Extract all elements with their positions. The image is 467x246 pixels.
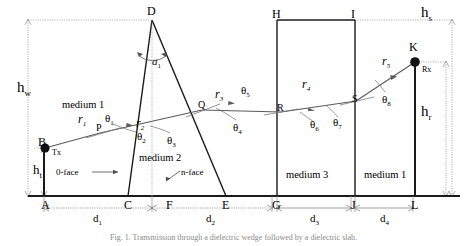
ray-label-r4: r4 — [302, 78, 310, 93]
point-label-a: A — [41, 199, 50, 211]
point-label-r: R — [277, 103, 284, 113]
dimension-hs — [449, 19, 455, 197]
face-leaders — [92, 170, 180, 181]
point-label-c: C — [124, 199, 132, 211]
point-label-h: H — [272, 8, 281, 20]
zero-face-label: 0-face — [56, 168, 78, 177]
wedge-medium-2 — [128, 20, 226, 196]
angle-label-theta8: θ8 — [382, 94, 391, 108]
distance-label-d3: d3 — [310, 213, 319, 227]
angle-label-theta6: θ6 — [310, 119, 319, 133]
point-label-i: I — [351, 8, 355, 20]
point-label-f: F — [166, 199, 173, 211]
angle-label-theta2: θ2 — [137, 131, 146, 145]
rx-label: Rx — [422, 66, 431, 74]
rx-marker — [410, 57, 420, 67]
distance-label-d2: d2 — [206, 213, 215, 227]
height-label-ht: ht — [33, 163, 42, 180]
point-label-e: E — [222, 199, 229, 211]
angle-label-a1: a1 — [152, 56, 161, 70]
ray-label-r5: r5 — [382, 55, 390, 70]
height-label-hs: hs — [421, 5, 432, 23]
medium-label-1-right: medium 1 — [364, 170, 406, 181]
point-label-q: Q — [198, 100, 205, 110]
dimension-hr — [443, 61, 449, 197]
angle-label-theta1: θ1 — [105, 113, 114, 127]
distance-label-d1: d1 — [93, 213, 102, 227]
point-label-p: P — [96, 123, 102, 133]
point-label-g: G — [272, 199, 281, 211]
dimension-hw — [25, 19, 31, 197]
medium-label-2: medium 2 — [139, 153, 181, 164]
point-label-b: B — [38, 136, 46, 148]
tx-label: Tx — [52, 149, 61, 157]
figure-container: medium 1 medium 2 medium 3 medium 1 A B … — [0, 0, 467, 246]
height-label-hr: hr — [421, 104, 432, 122]
angle-label-theta7: θ7 — [333, 117, 342, 131]
point-label-j: J — [351, 199, 356, 211]
point-label-k: K — [409, 41, 418, 53]
medium-label-1-left: medium 1 — [62, 100, 104, 111]
ray-label-r3: r3 — [215, 88, 223, 103]
height-label-hw: hw — [17, 80, 31, 98]
angle-label-theta4: θ4 — [233, 122, 242, 136]
ray-label-r1: r1 — [78, 113, 86, 128]
angle-label-theta3: θ3 — [167, 135, 176, 149]
point-label-l: L — [411, 199, 418, 211]
figure-caption: Fig. 1. Transmission through a dielectri… — [0, 233, 467, 246]
n-face-label: n-face — [181, 168, 203, 177]
point-label-s: S — [352, 94, 358, 104]
point-label-d: D — [147, 5, 156, 17]
angle-label-theta5: θ5 — [241, 85, 250, 99]
distance-label-d4: d4 — [380, 213, 389, 227]
medium-label-3: medium 3 — [286, 170, 328, 181]
